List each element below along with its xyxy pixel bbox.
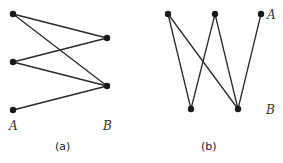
edge-a1-b1 xyxy=(13,14,107,38)
set-label-b: B xyxy=(102,119,112,133)
set-label-a: A xyxy=(8,119,18,133)
node-u2 xyxy=(235,106,241,112)
node-a3 xyxy=(10,107,16,113)
node-t2 xyxy=(212,11,218,17)
edge-t1-u1 xyxy=(168,14,191,109)
node-b2 xyxy=(104,83,110,89)
node-t1 xyxy=(165,11,171,17)
node-a1 xyxy=(10,11,16,17)
caption-b: (b) xyxy=(201,140,217,153)
caption-a: (a) xyxy=(55,140,70,153)
set-label-b: B xyxy=(265,103,275,117)
node-t3 xyxy=(258,11,264,17)
edge-t2-u2 xyxy=(215,14,238,109)
figure-b: A B (b) xyxy=(165,8,276,153)
edge-a3-b2 xyxy=(13,86,107,110)
figure-a: A B (a) xyxy=(8,11,112,153)
node-b1 xyxy=(104,35,110,41)
set-label-a: A xyxy=(266,8,276,22)
edge-t3-u2 xyxy=(238,14,261,109)
edge-t2-u1 xyxy=(191,14,215,109)
bipartite-diagram: A B (a) A B (b) xyxy=(0,0,283,163)
node-u1 xyxy=(188,106,194,112)
node-a2 xyxy=(10,59,16,65)
edge-a2-b1 xyxy=(13,38,107,62)
edge-a2-b2 xyxy=(13,62,107,86)
